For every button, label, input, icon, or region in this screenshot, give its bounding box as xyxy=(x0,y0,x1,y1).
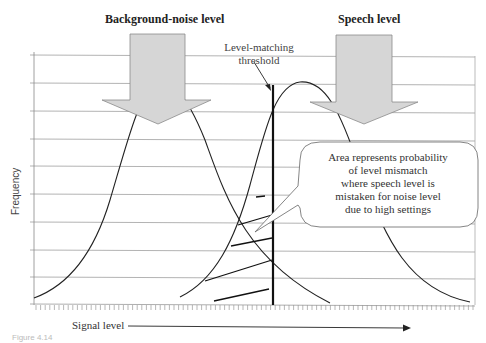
threshold-label: Level-matching threshold xyxy=(218,41,300,67)
speech-level-arrow xyxy=(310,35,418,124)
callout-line: where speech level is xyxy=(300,177,476,190)
threshold-label-line1: Level-matching xyxy=(218,41,300,54)
callout-line: due to high settings xyxy=(300,203,476,216)
callout-line: of level mismatch xyxy=(300,164,476,177)
speech-level-title: Speech level xyxy=(338,12,400,27)
noise-level-title: Background-noise level xyxy=(105,12,224,27)
callout-text: Area represents probability of level mis… xyxy=(300,151,476,216)
x-axis-arrow xyxy=(128,326,405,328)
callout-line: Area represents probability xyxy=(300,151,476,164)
figure-caption: Figure 4.14 xyxy=(12,333,52,342)
threshold-label-line2: threshold xyxy=(218,54,300,67)
noise-distribution-curve xyxy=(34,84,330,303)
y-axis-label: Frequency xyxy=(10,168,21,215)
x-axis-label: Signal level xyxy=(72,319,124,331)
noise-level-arrow xyxy=(102,34,211,124)
callout-line: mistaken for noise level xyxy=(300,190,476,203)
mismatch-hatching xyxy=(205,196,272,301)
